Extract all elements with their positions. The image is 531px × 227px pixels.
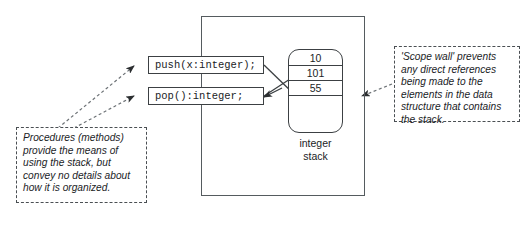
stack-label: integer stack [279,137,352,162]
stack-label-line2: stack [279,150,352,163]
stack-label-line1: integer [279,137,352,150]
stack-cell: 101 [289,66,342,81]
method-box-push: push(x:integer); [148,56,264,74]
callout-procedures: Procedures (methods) provide the means o… [16,127,147,203]
callout-scope-wall: 'Scope wall' prevents any direct referen… [394,46,520,122]
integer-stack-structure: 10 101 55 [288,49,343,133]
method-box-pop: pop():integer; [148,87,264,105]
stack-cell: 10 [289,50,342,66]
diagram-canvas: 10 101 55 integer stack push(x:integer);… [0,0,531,227]
stack-cell: 55 [289,81,342,96]
